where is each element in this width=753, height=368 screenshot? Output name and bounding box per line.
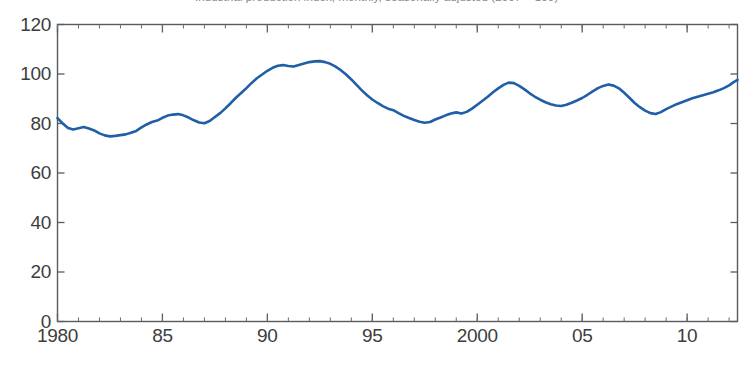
x-axis-labels: 198085909520000510 xyxy=(0,0,753,368)
x-tick-label: 1980 xyxy=(18,326,98,345)
x-tick-label: 2000 xyxy=(437,326,517,345)
x-tick-label: 85 xyxy=(122,326,202,345)
chart-figure: Industrial production index, monthly, se… xyxy=(0,0,753,368)
x-tick-label: 90 xyxy=(227,326,307,345)
x-tick-label: 95 xyxy=(332,326,412,345)
x-tick-label: 10 xyxy=(647,326,727,345)
x-tick-label: 05 xyxy=(542,326,622,345)
